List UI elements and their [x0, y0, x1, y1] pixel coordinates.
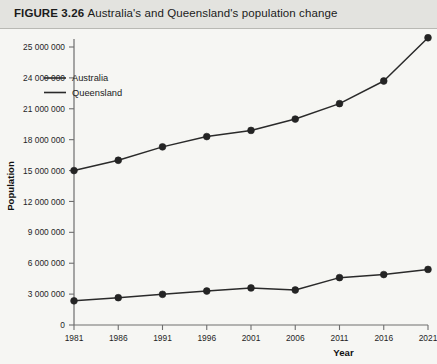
x-axis-title: Year [333, 347, 354, 358]
data-point-australia-2006 [292, 116, 299, 123]
data-point-australia-1991 [159, 143, 166, 150]
data-point-australia-1996 [203, 133, 210, 140]
data-point-queensland-1986 [115, 294, 122, 301]
data-point-australia-2001 [248, 127, 255, 134]
data-point-queensland-1991 [159, 291, 166, 298]
figure-title-bar: FIGURE 3.26 Australia's and Queensland's… [0, 0, 437, 29]
legend-label-queensland: Queensland [72, 88, 122, 98]
data-point-queensland-2016 [380, 271, 387, 278]
y-axis-tick-label: 9 000 000 [28, 227, 66, 237]
y-axis-tick-label: 6 000 000 [28, 258, 66, 268]
figure-title: FIGURE 3.26 Australia's and Queensland's… [14, 7, 337, 19]
series-line-australia [74, 38, 428, 171]
data-point-australia-2016 [380, 78, 387, 85]
figure-caption: Australia's and Queensland's population … [87, 7, 337, 19]
population-line-chart: 03 000 0006 000 0009 000 00012 000 00015… [0, 29, 437, 364]
y-axis-tick-label: 12 000 000 [23, 197, 65, 207]
x-axis-tick-label: 2021 [419, 333, 437, 343]
x-axis-tick-label: 2001 [242, 333, 261, 343]
y-axis-tick-label: 25 000 000 [23, 42, 65, 52]
data-point-australia-1981 [71, 167, 78, 174]
data-point-queensland-2001 [248, 285, 255, 292]
y-axis-title: Population [5, 161, 16, 211]
x-axis-tick-label: 1991 [153, 333, 172, 343]
x-axis-tick-label: 1981 [65, 333, 84, 343]
data-point-queensland-1996 [203, 288, 210, 295]
data-point-australia-1986 [115, 157, 122, 164]
figure-number: FIGURE 3.26 [14, 7, 84, 19]
legend-label-australia: Australia [72, 73, 109, 83]
data-point-queensland-2021 [425, 266, 432, 273]
y-axis-tick-label: 21 000 000 [23, 104, 65, 114]
figure-container: FIGURE 3.26 Australia's and Queensland's… [0, 0, 437, 364]
y-axis-tick-label: 3 000 000 [28, 289, 66, 299]
x-axis-tick-label: 1986 [109, 333, 128, 343]
data-point-queensland-2006 [292, 287, 299, 294]
x-axis-tick-label: 1996 [197, 333, 216, 343]
y-axis-tick-label: 18 000 000 [23, 135, 65, 145]
x-axis-tick-label: 2006 [286, 333, 305, 343]
data-series-group [71, 34, 432, 304]
x-axis: 198119861991199620012006201120162021 [65, 325, 437, 343]
y-axis: 03 000 0006 000 0009 000 00012 000 00015… [23, 39, 74, 330]
data-point-queensland-1981 [71, 297, 78, 304]
x-axis-tick-label: 2016 [374, 333, 393, 343]
x-axis-tick-label: 2011 [330, 333, 348, 343]
data-point-australia-2021 [425, 34, 432, 41]
y-axis-tick-label: 15 000 000 [23, 166, 65, 176]
data-point-australia-2011 [336, 100, 343, 107]
data-point-queensland-2011 [336, 274, 343, 281]
y-axis-tick-label: 0 [60, 320, 65, 330]
chart-plot-area: 03 000 0006 000 0009 000 00012 000 00015… [0, 29, 437, 364]
